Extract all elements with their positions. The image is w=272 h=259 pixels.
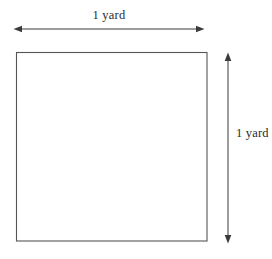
height-arrow-head-top [225,53,232,62]
height-dimension-label: 1 yard [236,127,269,140]
width-arrow-head-left [14,26,23,33]
diagram-canvas [0,0,272,259]
width-arrow-head-right [196,26,205,33]
geometry-figure: 1 yard 1 yard [0,0,272,259]
width-dimension-label: 1 yard [0,9,218,22]
width-dimension-arrow [14,26,205,33]
height-dimension-arrow [225,53,232,244]
height-arrow-head-bottom [225,235,232,244]
square-shape [17,53,208,242]
